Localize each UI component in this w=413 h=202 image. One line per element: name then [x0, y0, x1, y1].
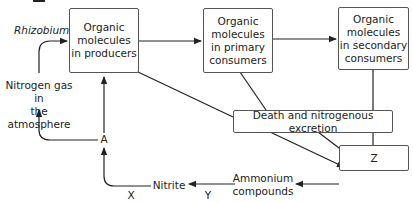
- secondary-line-2: molecules: [340, 26, 407, 39]
- label-nitrogen-gas: Nitrogen gas in the atmosphere: [0, 79, 78, 131]
- secondary-line-4: consumers: [340, 52, 407, 65]
- box-producers: Organic molecules in producers: [69, 8, 139, 73]
- box-death-excretion: Death and nitrogenous excretion: [233, 110, 393, 133]
- secondary-line-1: Organic: [340, 13, 407, 26]
- nitrogen-gas-line-2: the atmosphere: [0, 105, 78, 131]
- primary-line-4: consumers: [209, 54, 266, 67]
- box-secondary-consumers: Organic molecules in secondary consumers: [338, 7, 409, 70]
- secondary-line-3: in secondary: [340, 39, 407, 52]
- box-primary-consumers: Organic molecules in primary consumers: [203, 8, 273, 73]
- arrow-producers-to-z: [138, 72, 233, 117]
- death-excretion-label: Death and nitrogenous excretion: [234, 109, 392, 135]
- ammonium-line-1: Ammonium: [232, 172, 294, 185]
- primary-line-1: Organic: [209, 15, 266, 28]
- box-z: Z: [339, 145, 409, 171]
- arrow-primary-to-z: [240, 72, 266, 110]
- cropped-title-fragment: [33, 0, 45, 2]
- label-rhizobium: Rhizobium: [14, 24, 66, 37]
- ammonium-line-2: compounds: [232, 185, 294, 198]
- producers-line-3: in producers: [71, 47, 136, 60]
- arrow-nitrogen-to-producers: [39, 41, 67, 73]
- label-nitrite: Nitrite: [150, 179, 188, 192]
- label-ammonium-compounds: Ammonium compounds: [232, 172, 294, 198]
- primary-line-3: in primary: [209, 41, 266, 54]
- producers-line-2: molecules: [71, 34, 136, 47]
- nitrogen-gas-line-1: Nitrogen gas in: [0, 79, 78, 105]
- primary-line-2: molecules: [209, 28, 266, 41]
- label-x: X: [125, 189, 137, 202]
- label-y: Y: [202, 189, 214, 202]
- z-label: Z: [370, 152, 377, 165]
- arrow-nitrite-to-a: [104, 148, 151, 186]
- label-a: A: [98, 133, 110, 146]
- producers-line-1: Organic: [71, 21, 136, 34]
